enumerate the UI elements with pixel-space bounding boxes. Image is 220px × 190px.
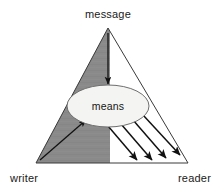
means-to-reader-arrow-4: [143, 115, 180, 155]
message-label: message: [85, 8, 131, 20]
writer-label: writer: [9, 172, 38, 184]
means-to-reader-arrow-2: [121, 124, 152, 160]
means-to-reader-arrow-3: [133, 120, 166, 158]
communication-triangle-diagram: means message writer reader: [0, 0, 220, 190]
reader-label: reader: [178, 172, 211, 184]
diagram-canvas: means message writer reader: [0, 0, 220, 190]
means-label: means: [92, 100, 125, 112]
means-to-reader-arrow-1: [108, 126, 137, 160]
